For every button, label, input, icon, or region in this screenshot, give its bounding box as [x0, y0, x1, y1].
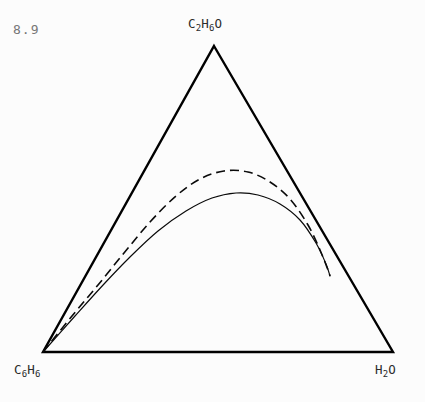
figure-number: 8.9	[13, 22, 39, 37]
ternary-triangle-outline	[43, 46, 393, 352]
tie-line-envelope-dashed	[43, 170, 330, 352]
figure-canvas: 8.9 C2H6O C6H6 H2O	[0, 0, 425, 402]
vertex-label-apex: C2H6O	[188, 16, 222, 33]
binodal-curve-solid	[43, 193, 330, 352]
ternary-diagram	[0, 0, 425, 402]
vertex-label-bottom-left: C6H6	[14, 362, 41, 379]
vertex-label-bottom-right: H2O	[375, 362, 396, 379]
